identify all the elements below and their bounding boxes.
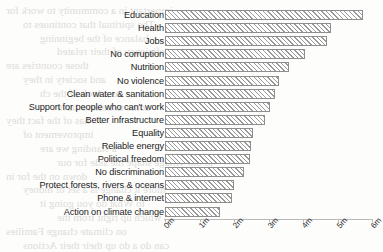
bar	[165, 49, 305, 59]
bar-row: Nutrition	[0, 61, 380, 74]
bar-category-label: Protect forests, rivers & oceans	[40, 179, 164, 192]
bar	[165, 207, 220, 217]
bar-row: Education	[0, 9, 380, 22]
bar-row: Equality	[0, 127, 380, 140]
bar-category-label: Education	[124, 9, 164, 22]
bar	[165, 180, 234, 190]
bar-row: Political freedom	[0, 153, 380, 166]
bar-row: No discrimination	[0, 166, 380, 179]
bar-row: Support for people who can't work	[0, 101, 380, 114]
bar-row: Protect forests, rivers & oceans	[0, 179, 380, 192]
bar	[165, 115, 265, 125]
bar	[165, 141, 251, 151]
bar	[165, 102, 270, 112]
bar-row: Jobs	[0, 35, 380, 48]
bar-category-label: Clean water & sanitation	[67, 88, 164, 101]
bar-category-label: Nutrition	[131, 61, 164, 74]
bar-row: Action on climate change	[0, 206, 380, 219]
bar-category-label: Political freedom	[98, 153, 164, 166]
bar	[165, 167, 244, 177]
bar	[165, 154, 250, 164]
bar-row: Clean water & sanitation	[0, 88, 380, 101]
bar-row: Reliable energy	[0, 140, 380, 153]
bar-category-label: Action on climate change	[64, 206, 164, 219]
bar-category-label: Better infrastructure	[85, 114, 164, 127]
bar	[165, 23, 331, 33]
bar	[165, 89, 275, 99]
bar-category-label: Reliable energy	[102, 140, 164, 153]
bar-category-label: Phone & internet	[97, 192, 164, 205]
bar	[165, 193, 232, 203]
bar-category-label: No discrimination	[95, 166, 164, 179]
bar-row: No violence	[0, 75, 380, 88]
bar-row: Health	[0, 22, 380, 35]
bar-category-label: Equality	[132, 127, 164, 140]
bar-category-label: No corruption	[110, 48, 164, 61]
bar	[165, 36, 327, 46]
bar-category-label: Health	[138, 22, 164, 35]
bar-category-label: Support for people who can't work	[29, 101, 164, 114]
bar	[165, 76, 279, 86]
bar-row: Better infrastructure	[0, 114, 380, 127]
bar-row: Phone & internet	[0, 192, 380, 205]
bar	[165, 128, 253, 138]
bar-category-label: No violence	[117, 75, 164, 88]
bar-row: No corruption	[0, 48, 380, 61]
bar	[165, 62, 289, 72]
bar-category-label: Jobs	[145, 35, 164, 48]
bar	[165, 10, 363, 20]
